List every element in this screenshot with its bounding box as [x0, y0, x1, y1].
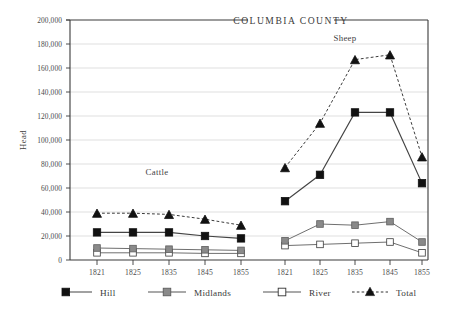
- xtick-label-sheep-1825: 1825: [312, 268, 328, 277]
- series-marker-cattle-hill-1845: [201, 232, 208, 239]
- legend-marker-river: [278, 288, 286, 296]
- series-marker-sheep-hill-1855: [418, 180, 425, 187]
- xtick-label-sheep-1855: 1855: [414, 268, 430, 277]
- series-marker-sheep-midlands-1825: [317, 221, 324, 228]
- legend-label-hill: Hill: [100, 288, 116, 298]
- xtick-label-sheep-1845: 1845: [382, 268, 398, 277]
- chart-figure: COLUMBIA COUNTY 200,000 180,000 160,000 …: [0, 0, 449, 309]
- series-marker-cattle-hill-1835: [165, 229, 172, 236]
- legend-marker-hill: [62, 288, 70, 296]
- legend-marker-midlands: [163, 288, 171, 296]
- ytick-label-100000: 100,000: [37, 136, 62, 145]
- series-marker-sheep-river-1835: [352, 240, 359, 247]
- series-marker-sheep-hill-1845: [386, 109, 393, 116]
- ytick-label-140000: 140,000: [37, 88, 62, 97]
- legend-label-river: River: [309, 288, 331, 298]
- series-marker-cattle-midlands-1855: [238, 247, 245, 254]
- ytick-label-120000: 120,000: [37, 112, 62, 121]
- ytick-label-160000: 160,000: [37, 64, 62, 73]
- ytick-label-180000: 180,000: [37, 40, 62, 49]
- series-marker-sheep-river-1855: [419, 250, 426, 257]
- ytick-label-0: 0: [58, 256, 62, 265]
- group-label-sheep: Sheep: [334, 33, 357, 43]
- series-marker-sheep-hill-1835: [351, 109, 358, 116]
- series-marker-cattle-hill-1821: [93, 229, 100, 236]
- y-axis-title: Head: [18, 130, 28, 150]
- xtick-label-cattle-1825: 1825: [125, 268, 141, 277]
- series-marker-sheep-midlands-1855: [419, 239, 426, 246]
- livestock-line-chart: COLUMBIA COUNTY 200,000 180,000 160,000 …: [0, 0, 449, 309]
- series-marker-cattle-hill-1825: [129, 229, 136, 236]
- series-marker-sheep-midlands-1845: [387, 218, 394, 225]
- xtick-label-cattle-1855: 1855: [233, 268, 249, 277]
- chart-title: COLUMBIA COUNTY: [233, 15, 349, 26]
- series-marker-cattle-midlands-1835: [166, 246, 173, 253]
- ytick-label-200000: 200,000: [37, 16, 62, 25]
- xtick-label-cattle-1845: 1845: [197, 268, 213, 277]
- series-marker-sheep-hill-1821: [281, 198, 288, 205]
- series-marker-sheep-hill-1825: [316, 171, 323, 178]
- series-marker-sheep-river-1825: [317, 241, 324, 248]
- xtick-label-cattle-1821: 1821: [89, 268, 105, 277]
- xtick-label-sheep-1835: 1835: [347, 268, 363, 277]
- series-marker-sheep-midlands-1821: [282, 238, 289, 245]
- legend-label-total: Total: [396, 288, 416, 298]
- ytick-label-40000: 40,000: [41, 208, 62, 217]
- series-marker-cattle-midlands-1825: [130, 245, 137, 252]
- chart-background: [0, 0, 449, 309]
- series-marker-cattle-midlands-1821: [94, 245, 101, 252]
- series-marker-cattle-hill-1855: [237, 235, 244, 242]
- xtick-label-cattle-1835: 1835: [161, 268, 177, 277]
- legend-label-midlands: Midlands: [194, 288, 231, 298]
- group-label-cattle: Cattle: [146, 167, 169, 177]
- xtick-label-sheep-1821: 1821: [277, 268, 293, 277]
- ytick-label-80000: 80,000: [41, 160, 62, 169]
- series-marker-cattle-midlands-1845: [202, 247, 209, 254]
- series-marker-sheep-river-1845: [387, 239, 394, 246]
- ytick-label-60000: 60,000: [41, 184, 62, 193]
- ytick-label-20000: 20,000: [41, 232, 62, 241]
- series-marker-sheep-midlands-1835: [352, 222, 359, 229]
